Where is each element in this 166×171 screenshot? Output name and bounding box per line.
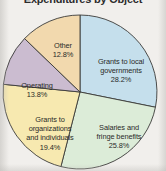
pie-label-operating: Operating 13.8%: [6, 81, 68, 99]
pie-label-value: 12.8%: [34, 50, 92, 59]
pie-label-line-2: governments: [84, 66, 158, 75]
pie-label-other: Other 12.8%: [34, 41, 92, 59]
pie-label-salaries-and-fringe-benefits: Salaries and fringe benefits 25.8%: [83, 123, 155, 151]
pie-label-line-1: Other: [34, 41, 92, 50]
pie-label-value: 13.8%: [6, 90, 68, 99]
pie-label-line-3: and individuals: [9, 133, 91, 142]
pie-label-line-1: Salaries and: [83, 123, 155, 132]
pie-chart: Grants to local governments 28.2% Salari…: [1, 13, 159, 171]
pie-label-grants-to-organizations-and-individuals: Grants to organizations and individuals …: [9, 115, 91, 152]
pie-chart-figure: Expenditures by Object Grants to local g…: [0, 0, 166, 171]
pie-label-line-2: organizations: [9, 124, 91, 133]
pie-label-line-1: Operating: [6, 81, 68, 90]
pie-label-value: 19.4%: [9, 143, 91, 152]
chart-title: Expenditures by Object: [0, 0, 166, 5]
pie-label-line-1: Grants to: [9, 115, 91, 124]
pie-label-line-2: fringe benefits: [83, 132, 155, 141]
pie-label-line-1: Grants to local: [84, 57, 158, 66]
pie-label-grants-to-local-governments: Grants to local governments 28.2%: [84, 57, 158, 85]
pie-label-value: 25.8%: [83, 141, 155, 150]
pie-label-value: 28.2%: [84, 75, 158, 84]
